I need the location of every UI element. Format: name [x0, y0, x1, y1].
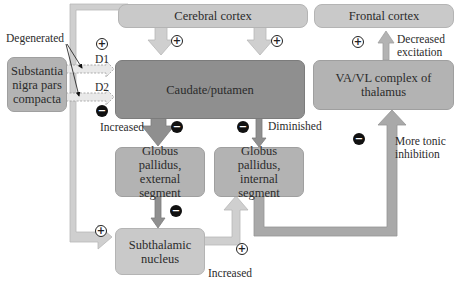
d1-label: D1 — [95, 53, 109, 66]
plus-sign-cortex-caudate-2: + — [271, 35, 283, 47]
subthalamic-label: Subthalamic nucleus — [129, 238, 192, 266]
subthalamic-node: Subthalamic nucleus — [115, 228, 205, 275]
plus-sign-thalamus-frontal: + — [352, 36, 364, 48]
basal-ganglia-diagram: Cerebral cortex Frontal cortex Substanti… — [0, 0, 458, 286]
minus-sign-gpe-stn: − — [170, 205, 182, 217]
caudate-putamen-label: Caudate/putamen — [166, 83, 253, 97]
gp-external-node: Globus pallidus, external segment — [115, 147, 205, 197]
stn-to-gpi-arrow — [204, 196, 248, 245]
vavl-thalamus-label: VA/VL complex of thalamus — [328, 71, 439, 99]
cerebral-cortex-node: Cerebral cortex — [118, 4, 308, 28]
plus-sign-cortex-caudate-1: + — [171, 35, 183, 47]
degenerated-label: Degenerated — [6, 32, 64, 45]
vavl-thalamus-node: VA/VL complex of thalamus — [313, 60, 454, 110]
thalamus-to-frontal-arrow — [378, 31, 394, 60]
gpe-to-stn-arrow — [151, 196, 165, 228]
minus-sign-d2: − — [96, 105, 108, 117]
increased-stn-output-label: Increased — [208, 267, 252, 280]
substantia-nigra-label: Substantia nigra pars compacta — [10, 64, 64, 106]
gp-internal-node: Globus pallidus, internal segment — [214, 147, 304, 197]
cerebral-cortex-label: Cerebral cortex — [174, 9, 251, 23]
caudate-to-gpi-arrow — [252, 118, 266, 147]
frontal-cortex-label: Frontal cortex — [349, 9, 419, 23]
more-tonic-inhibition-label-1: More tonic — [395, 135, 446, 148]
more-tonic-inhibition-label-2: inhibition — [395, 148, 440, 161]
plus-sign-d1: + — [96, 38, 108, 50]
caudate-to-gpe-arrow — [142, 118, 174, 146]
increased-striatal-output-label: Increased — [100, 121, 144, 134]
gp-internal-label: Globus pallidus, internal segment — [219, 144, 299, 200]
d2-label: D2 — [95, 81, 109, 94]
diminished-label: Diminished — [268, 120, 322, 133]
minus-sign-gpi-thalamus: − — [353, 133, 365, 145]
plus-sign-stn-gpi: + — [236, 243, 248, 255]
pathways-layer — [0, 0, 458, 286]
plus-sign-cortex-stn: + — [95, 225, 107, 237]
frontal-cortex-node: Frontal cortex — [314, 4, 454, 28]
substantia-nigra-node: Substantia nigra pars compacta — [7, 57, 67, 112]
minus-sign-caudate-gpe: − — [171, 121, 183, 133]
decreased-excitation-label-1: Decreased — [397, 33, 445, 46]
decreased-excitation-label-2: excitation — [397, 46, 442, 59]
caudate-putamen-node: Caudate/putamen — [115, 60, 305, 119]
minus-sign-caudate-gpi: − — [237, 121, 249, 133]
gp-external-label: Globus pallidus, external segment — [120, 144, 200, 200]
